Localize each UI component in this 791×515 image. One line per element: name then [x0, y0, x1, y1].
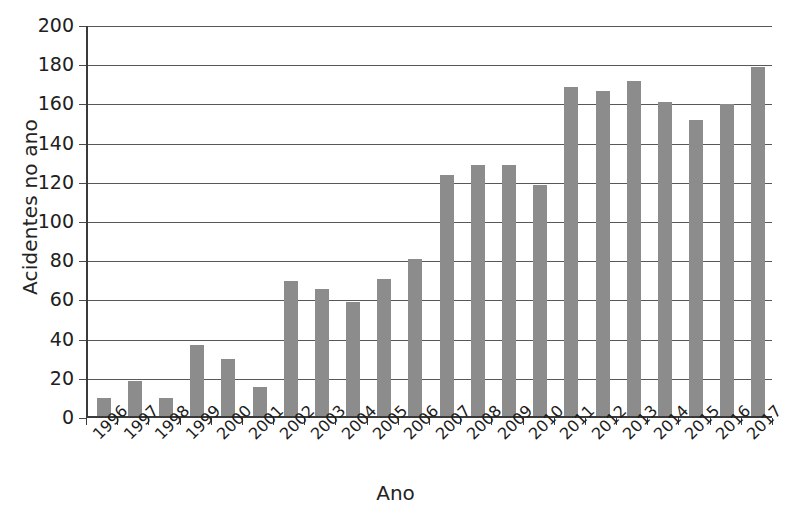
- y-tick-mark-80: [79, 261, 86, 262]
- y-tick-mark-140: [79, 144, 86, 145]
- y-tick-label-200: 200: [30, 16, 74, 35]
- y-tick-mark-180: [79, 65, 86, 66]
- y-tick-mark-200: [79, 26, 86, 27]
- y-tick-mark-120: [79, 183, 86, 184]
- y-tick-label-40: 40: [30, 330, 74, 349]
- y-tick-label-160: 160: [30, 94, 74, 113]
- bar-2007: [440, 175, 454, 416]
- y-tick-mark-160: [79, 104, 86, 105]
- bar-2010: [533, 185, 547, 416]
- plot-top-border: [88, 26, 772, 27]
- bar-2013: [627, 81, 641, 416]
- y-tick-label-100: 100: [30, 212, 74, 231]
- y-tick-mark-0: [79, 418, 86, 419]
- bar-1999: [190, 345, 204, 416]
- plot-area: [86, 26, 772, 418]
- x-tick-mark-0: [86, 418, 87, 425]
- bar-2004: [346, 302, 360, 416]
- bar-2016: [720, 104, 734, 416]
- y-tick-label-0: 0: [30, 408, 74, 427]
- bar-2009: [502, 165, 516, 416]
- y-tick-label-180: 180: [30, 55, 74, 74]
- bar-2017: [751, 67, 765, 416]
- bar-2002: [284, 281, 298, 416]
- y-tick-label-60: 60: [30, 290, 74, 309]
- bar-2005: [377, 279, 391, 416]
- y-tick-label-20: 20: [30, 369, 74, 388]
- bar-2015: [689, 120, 703, 416]
- y-tick-label-140: 140: [30, 134, 74, 153]
- bar-2011: [564, 87, 578, 416]
- x-axis-title: Ano: [0, 481, 791, 505]
- y-tick-mark-60: [79, 300, 86, 301]
- y-tick-mark-20: [79, 379, 86, 380]
- y-tick-label-80: 80: [30, 251, 74, 270]
- bar-2014: [658, 102, 672, 416]
- gridline-180: [88, 65, 772, 66]
- bar-2003: [315, 289, 329, 416]
- bar-chart: Acidentes no ano 02040608010012014016018…: [0, 0, 791, 515]
- y-tick-mark-100: [79, 222, 86, 223]
- y-tick-label-120: 120: [30, 173, 74, 192]
- y-tick-mark-40: [79, 340, 86, 341]
- bar-2000: [221, 359, 235, 416]
- bar-2006: [408, 259, 422, 416]
- bar-2008: [471, 165, 485, 416]
- bar-2012: [596, 91, 610, 416]
